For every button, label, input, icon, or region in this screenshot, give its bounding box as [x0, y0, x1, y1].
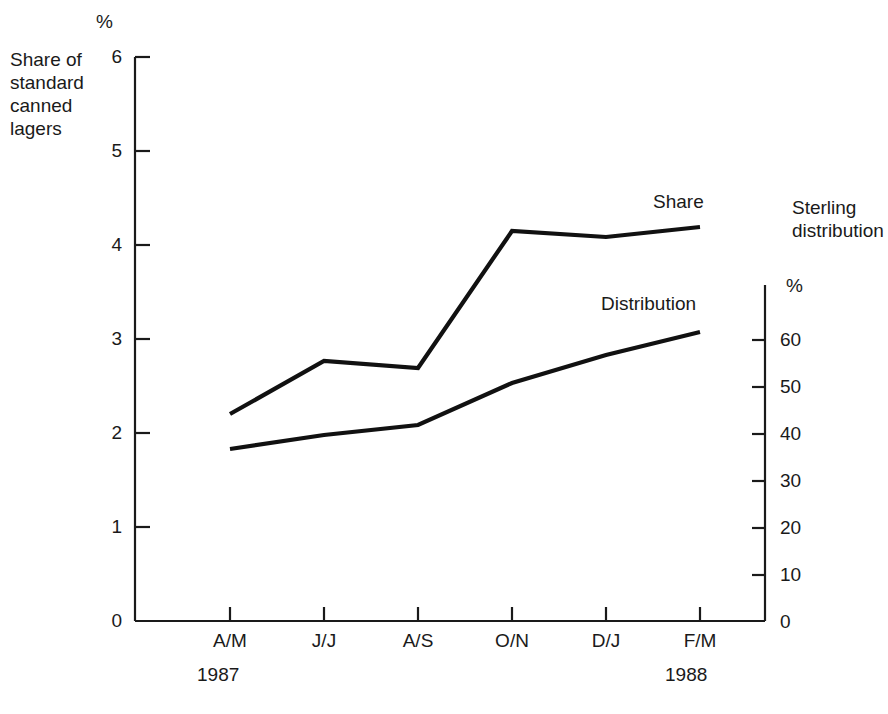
right-axis-unit-label: %: [786, 274, 803, 297]
left-tick-label-5: 5: [86, 140, 122, 162]
x-tick-label-dj: D/J: [566, 630, 646, 652]
left-tick-label-2: 2: [86, 422, 122, 444]
right-tick-label-30: 30: [780, 470, 801, 492]
left-axis-unit-label: %: [96, 10, 113, 33]
left-tick-label-0: 0: [86, 610, 122, 632]
x-axis-ticks: [230, 607, 700, 621]
chart-figure: Share of standard canned lagers % 6 5 4 …: [0, 0, 888, 714]
left-tick-label-6: 6: [86, 46, 122, 68]
series-annotation-share: Share: [653, 190, 704, 213]
right-tick-label-10: 10: [780, 564, 801, 586]
x-tick-label-on: O/N: [472, 630, 552, 652]
x-tick-label-am: A/M: [190, 630, 270, 652]
line-chart-plot: [0, 0, 888, 714]
x-tick-label-as: A/S: [378, 630, 458, 652]
period-label-1988: 1988: [665, 663, 707, 686]
left-tick-label-4: 4: [86, 234, 122, 256]
right-axis-ticks: [752, 340, 765, 575]
x-tick-label-fm: F/M: [660, 630, 740, 652]
left-tick-label-1: 1: [86, 516, 122, 538]
series-line-share: [230, 227, 700, 414]
period-label-1987: 1987: [197, 663, 239, 686]
right-tick-label-20: 20: [780, 517, 801, 539]
right-tick-label-40: 40: [780, 423, 801, 445]
series-annotation-distribution: Distribution: [601, 292, 696, 315]
left-tick-label-3: 3: [86, 328, 122, 350]
right-tick-label-50: 50: [780, 376, 801, 398]
right-tick-label-60: 60: [780, 329, 801, 351]
right-tick-label-0: 0: [780, 611, 791, 633]
series-line-distribution: [230, 332, 700, 449]
left-axis-ticks: [135, 57, 150, 527]
right-axis-caption: Sterling distribution: [792, 196, 888, 242]
x-tick-label-jj: J/J: [284, 630, 364, 652]
